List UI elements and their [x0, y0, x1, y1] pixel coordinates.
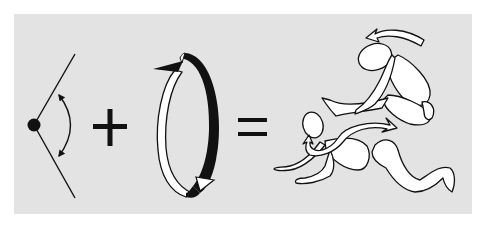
equals-icon: [238, 118, 267, 136]
plus-icon: [93, 109, 127, 146]
diagram-canvas: [0, 0, 483, 225]
angle-icon: [28, 54, 76, 198]
rotation-ring-icon: [153, 53, 219, 198]
human-figures-icon: [274, 29, 454, 192]
